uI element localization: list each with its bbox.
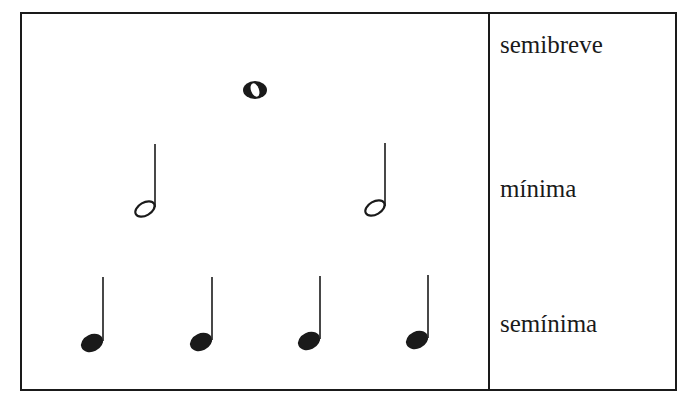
quarter-note-icon bbox=[187, 277, 215, 355]
quarter-note-icon bbox=[403, 275, 431, 353]
label-seminima: semínima bbox=[500, 311, 597, 336]
quarter-note-icon bbox=[78, 277, 106, 356]
half-note-icon bbox=[363, 143, 388, 219]
whole-note-icon bbox=[243, 81, 267, 99]
quarter-note-icon bbox=[295, 276, 323, 354]
label-semibreve: semibreve bbox=[500, 32, 603, 57]
label-minima: mínima bbox=[500, 176, 576, 201]
half-note-icon bbox=[133, 144, 158, 220]
notes-area bbox=[0, 0, 689, 412]
